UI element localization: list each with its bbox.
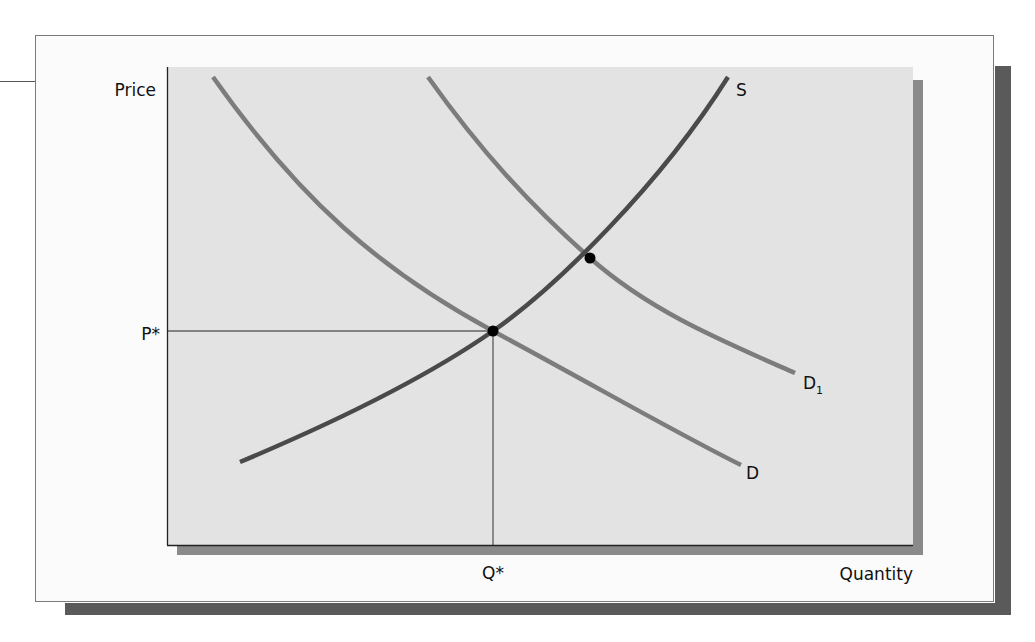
plot-shadow-right xyxy=(913,80,923,555)
q-star-label: Q* xyxy=(482,563,504,583)
equilibrium-point-shifted xyxy=(585,253,596,264)
y-axis-label: Price xyxy=(115,80,156,100)
plot-area xyxy=(167,67,913,545)
supply-demand-chart: Price P* Q* Quantity S D D1 xyxy=(0,0,1035,642)
demand-shifted-label-subscript: 1 xyxy=(816,384,823,397)
supply-label: S xyxy=(736,80,747,100)
x-axis-label: Quantity xyxy=(840,564,913,584)
equilibrium-point-initial xyxy=(488,326,499,337)
demand-shifted-label-main: D xyxy=(803,373,816,393)
demand-label: D xyxy=(746,463,759,483)
plot-shadow-bottom xyxy=(177,545,923,555)
p-star-label: P* xyxy=(141,324,160,344)
